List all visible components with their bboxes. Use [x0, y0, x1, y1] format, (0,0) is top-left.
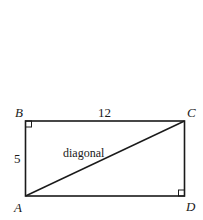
diagonal-label: diagonal: [63, 146, 105, 160]
right-angle-marker-b: [26, 121, 32, 127]
diagonal-line: [26, 121, 185, 196]
right-angle-marker-d: [179, 190, 185, 196]
vertex-label-c: C: [187, 105, 196, 120]
side-length-top: 12: [98, 105, 111, 120]
vertex-label-b: B: [15, 105, 23, 120]
side-length-left: 5: [14, 151, 21, 166]
vertex-label-a: A: [13, 200, 22, 215]
vertex-label-d: D: [185, 199, 196, 214]
rectangle-diagram: B C A D 12 5 diagonal: [0, 0, 203, 220]
